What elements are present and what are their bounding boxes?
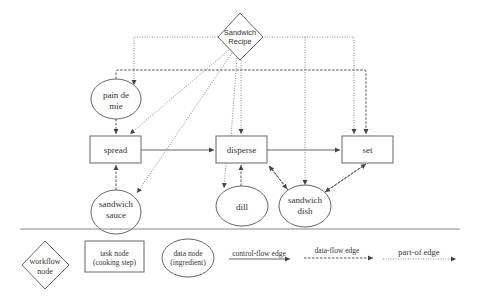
disperse-label: disperse (227, 145, 257, 155)
legend-part-of-label: part-of edge (398, 247, 440, 257)
legend-part-of-edge: part-of edge (383, 247, 456, 259)
pain-de-mie-label-1: pain de (103, 90, 129, 100)
recipe-workflow-diagram: Sandwich Recipe pain de mie spread dispe… (0, 0, 478, 296)
task-node-spread[interactable]: spread (90, 136, 141, 163)
sandwich-dish-label-1: sandwich (288, 195, 322, 205)
legend-task-node: task node (cooking step) (85, 241, 144, 272)
sandwich-dish-label-2: dish (297, 206, 313, 216)
data-node-sandwich-dish[interactable]: sandwich dish (279, 185, 331, 227)
legend: workflow node task node (cooking step) d… (22, 239, 456, 289)
part-of-edge-spread (130, 50, 229, 134)
legend-workflow-node: workflow node (22, 241, 69, 289)
part-of-edge-set (262, 37, 354, 134)
data-flow-edge-top-bus (116, 70, 366, 134)
legend-workflow-label-1: workflow (29, 257, 60, 266)
part-of-edge-sandwich-sauce (137, 53, 232, 193)
workflow-node-label-2: Recipe (228, 37, 251, 46)
data-flow-edge-disperse-dish (270, 166, 287, 189)
legend-control-flow-label: control-flow edge (232, 249, 286, 258)
data-node-sandwich-sauce[interactable]: sandwich sauce (91, 190, 141, 234)
part-of-edge-dill (224, 58, 237, 188)
task-node-set[interactable]: set (342, 136, 393, 163)
legend-data-label-2: (ingredient) (170, 258, 206, 267)
pain-de-mie-label-2: mie (109, 101, 123, 111)
data-node-dill[interactable]: dill (216, 186, 268, 226)
part-of-edges (130, 37, 354, 193)
workflow-node-label-1: Sandwich (224, 28, 257, 37)
task-node-disperse[interactable]: disperse (216, 136, 267, 163)
legend-data-label-1: data node (174, 249, 204, 258)
legend-control-flow-edge: control-flow edge (229, 249, 290, 259)
legend-task-label-2: (cooking step) (93, 258, 137, 267)
spread-label: spread (104, 145, 128, 155)
data-node-pain-de-mie[interactable]: pain de mie (91, 79, 141, 119)
workflow-node-sandwich-recipe[interactable]: Sandwich Recipe (218, 13, 263, 60)
sandwich-sauce-label-2: sauce (106, 210, 126, 220)
legend-data-flow-edge: data-flow edge (304, 246, 373, 258)
legend-task-label-1: task node (100, 249, 129, 258)
sandwich-sauce-label-1: sandwich (99, 199, 133, 209)
legend-workflow-label-2: node (37, 267, 53, 276)
set-label: set (363, 145, 373, 155)
dill-label: dill (236, 202, 249, 212)
legend-data-flow-label: data-flow edge (315, 246, 360, 255)
legend-data-node: data node (ingredient) (162, 239, 214, 277)
part-of-edge-pain-de-mie (134, 37, 218, 85)
